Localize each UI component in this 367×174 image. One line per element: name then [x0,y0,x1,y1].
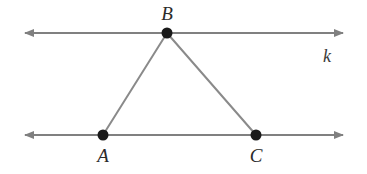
vertex-point-b [162,28,173,39]
vertex-point-a [98,130,109,141]
vertex-label-a: A [95,145,109,166]
geometry-figure: B A C k [0,0,367,174]
geometry-diagram-canvas: B A C k [0,0,367,174]
vertex-point-c [251,130,262,141]
vertex-label-b: B [161,3,173,24]
line-label-k: k [323,46,332,66]
diagram-background [0,0,367,174]
vertex-label-c: C [250,145,263,166]
